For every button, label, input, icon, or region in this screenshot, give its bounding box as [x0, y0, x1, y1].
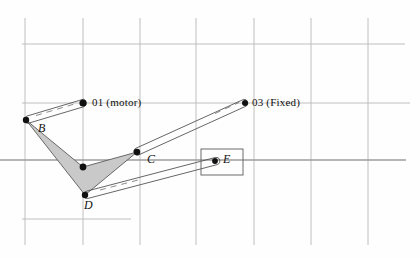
- link-c-o3-edge-top: [135, 99, 243, 148]
- link-d-e-centerline-dash: [100, 180, 140, 191]
- link-c-o3-edge-bottom: [138, 106, 246, 155]
- link-b-o1-edge-bottom: [28, 107, 85, 124]
- joint-center-pivot: [80, 164, 87, 171]
- joint-o1-motor-pivot: [79, 99, 86, 106]
- joint-c: [134, 149, 140, 155]
- link-c-o3: [134, 99, 248, 155]
- slider-guide-box: [201, 149, 243, 175]
- label-motor-pivot: 01 (motor): [92, 96, 141, 108]
- diagram-canvas: 01 (motor) 03 (Fixed) B C D E: [0, 0, 420, 258]
- label-point-d: D: [84, 198, 93, 213]
- label-point-b: B: [38, 121, 45, 136]
- label-point-c: C: [147, 152, 155, 167]
- grid-layer: [0, 18, 410, 245]
- joint-o3-fixed-pivot: [242, 100, 248, 106]
- label-point-e: E: [223, 152, 230, 167]
- link-c-o3-centerline-dash: [215, 103, 239, 114]
- linkage-diagram-svg: [0, 0, 420, 258]
- link-b-o1-edge-top: [27, 99, 84, 116]
- joint-e: [212, 158, 218, 164]
- label-fixed-pivot: 03 (Fixed): [252, 96, 300, 108]
- slider-box-layer: [201, 149, 243, 175]
- grid-horizontal-lines: [0, 44, 410, 219]
- joint-b: [23, 117, 29, 123]
- link-b-o1-centerline-dash: [36, 104, 76, 116]
- grid-vertical-lines: [25, 18, 368, 245]
